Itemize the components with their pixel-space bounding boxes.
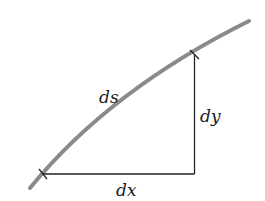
curve xyxy=(30,21,249,188)
label-dx: dx xyxy=(116,180,137,200)
label-dy: dy xyxy=(200,106,221,126)
arc-length-diagram: ds dy dx xyxy=(0,0,265,201)
label-ds: ds xyxy=(99,87,119,107)
